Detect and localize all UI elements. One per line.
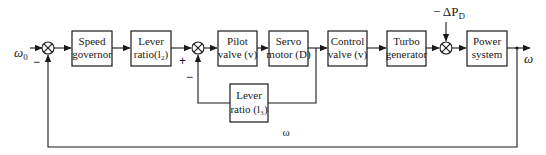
svg-text:motor (D): motor (D) (266, 48, 311, 61)
disturbance-label: − ΔPD (433, 4, 465, 21)
summing-junction-2 (192, 42, 204, 54)
svg-text:ω0: ω0 (14, 45, 28, 62)
svg-text:Power: Power (473, 35, 501, 47)
feedback-label: ω (282, 126, 289, 138)
svg-text:system: system (472, 48, 503, 60)
svg-text:valve (v): valve (v) (328, 48, 368, 61)
block-lever-ratio-l3: Lever ratio (l₃) (230, 84, 268, 122)
svg-text:Speed: Speed (79, 35, 106, 47)
summing-junction-1 (42, 42, 54, 54)
block-speed-governor: Speed governor (72, 31, 112, 66)
block-lever-ratio-l2: Lever ratio(l₂) (131, 31, 171, 66)
svg-text:Servo: Servo (276, 35, 302, 47)
svg-text:ratio (l₃): ratio (l₃) (230, 103, 267, 116)
svg-text:Lever: Lever (138, 35, 164, 47)
svg-text:generator: generator (386, 48, 428, 60)
svg-text:valve (v): valve (v) (218, 48, 258, 61)
svg-text:− ΔPD: − ΔPD (433, 4, 465, 21)
input-label: ω0 (14, 45, 28, 62)
summing-junction-3 (440, 42, 452, 54)
block-power-system: Power system (467, 31, 507, 66)
minus-sign-2: − (186, 70, 193, 84)
block-turbo-generator: Turbo generator (386, 31, 428, 66)
block-pilot-valve: Pilot valve (v) (218, 31, 258, 66)
block-diagram: ω0 − Speed governor Lever ratio(l₂) + − … (0, 0, 546, 155)
svg-text:governor: governor (72, 48, 112, 60)
minus-sign-1: − (33, 55, 40, 69)
output-label: ω (524, 51, 533, 66)
block-control-valve: Control valve (v) (328, 31, 368, 66)
svg-text:Pilot: Pilot (227, 35, 248, 47)
plus-sign-2: + (179, 54, 186, 68)
svg-text:Lever: Lever (236, 89, 262, 101)
svg-text:Turbo: Turbo (393, 35, 420, 47)
svg-text:Control: Control (331, 35, 365, 47)
block-servo-motor: Servo motor (D) (266, 31, 311, 66)
svg-text:ratio(l₂): ratio(l₂) (134, 48, 169, 61)
